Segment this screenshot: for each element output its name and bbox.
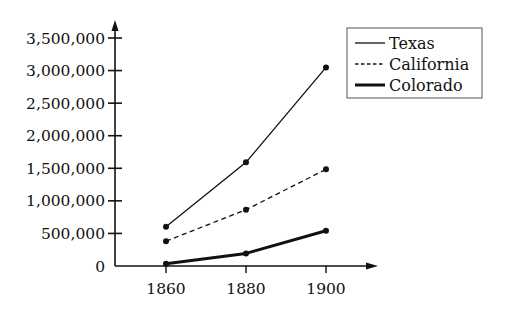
y-tick-label: 0 <box>95 258 105 276</box>
x-ticks: 186018801900 <box>146 266 345 298</box>
data-point-texas <box>243 159 249 165</box>
data-point-colorado <box>163 261 169 267</box>
y-ticks: 0500,0001,000,0001,500,0002,000,0002,500… <box>26 30 122 276</box>
series-line-texas <box>166 67 326 226</box>
y-tick-label: 500,000 <box>41 225 105 243</box>
legend-label-texas: Texas <box>389 34 435 53</box>
x-tick-label: 1880 <box>226 280 265 298</box>
y-tick-label: 1,500,000 <box>26 160 105 178</box>
legend: TexasCaliforniaColorado <box>347 28 482 98</box>
legend-label-colorado: Colorado <box>389 76 463 95</box>
x-tick-label: 1900 <box>306 280 345 298</box>
series-lines <box>163 64 329 266</box>
x-axis-arrow-icon <box>366 263 378 270</box>
line-chart: 0500,0001,000,0001,500,0002,000,0002,500… <box>0 0 505 311</box>
data-point-texas <box>323 64 329 70</box>
x-tick-label: 1860 <box>146 280 185 298</box>
data-point-california <box>243 207 249 213</box>
data-point-colorado <box>323 228 329 234</box>
data-point-texas <box>163 224 169 230</box>
y-axis-arrow-icon <box>112 20 119 31</box>
y-tick-label: 1,000,000 <box>26 192 105 210</box>
y-tick-label: 3,000,000 <box>26 62 105 80</box>
legend-label-california: California <box>389 55 470 74</box>
y-tick-label: 3,500,000 <box>26 30 105 48</box>
series-line-california <box>166 169 326 241</box>
data-point-california <box>163 238 169 244</box>
axes <box>112 20 379 270</box>
y-tick-label: 2,500,000 <box>26 95 105 113</box>
series-line-colorado <box>166 231 326 264</box>
y-tick-label: 2,000,000 <box>26 127 105 145</box>
data-point-california <box>323 166 329 172</box>
data-point-colorado <box>243 250 249 256</box>
